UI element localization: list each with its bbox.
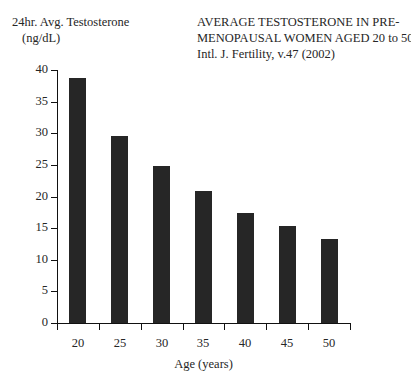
x-axis-tick-label: 30 bbox=[142, 336, 182, 351]
x-axis-tick-label: 35 bbox=[183, 336, 223, 351]
y-axis-caption-line2: (ng/dL) bbox=[12, 30, 172, 46]
y-axis-tick-label: 10 bbox=[36, 252, 49, 267]
plot-area: 0510152025303540 20253035404550 Age (yea… bbox=[57, 70, 350, 323]
x-axis-tick-label: 25 bbox=[100, 336, 140, 351]
y-axis-tick-label: 25 bbox=[36, 157, 49, 172]
y-axis-tick-mark bbox=[51, 197, 58, 198]
x-axis-tick-mark bbox=[224, 323, 225, 330]
x-axis-tick-mark bbox=[99, 323, 100, 330]
x-axis-tick-mark bbox=[141, 323, 142, 330]
y-axis-tick-label: 5 bbox=[42, 283, 48, 298]
chart-title-line2: MENOPAUSAL WOMEN AGED 20 to 50 bbox=[197, 30, 411, 46]
x-axis-tick-label: 50 bbox=[309, 336, 349, 351]
chart-title-line1: AVERAGE TESTOSTERONE IN PRE- bbox=[197, 14, 411, 30]
x-axis-title: Age (years) bbox=[57, 357, 350, 372]
bar bbox=[69, 78, 86, 323]
y-axis-caption-line1: 24hr. Avg. Testosterone bbox=[12, 14, 172, 30]
y-axis-tick: 35 bbox=[57, 102, 58, 103]
y-axis-tick-label: 40 bbox=[36, 62, 49, 77]
x-axis-tick-label: 45 bbox=[267, 336, 307, 351]
y-axis-tick-mark bbox=[51, 102, 58, 103]
x-axis-tick-mark bbox=[183, 323, 184, 330]
y-axis-tick-mark bbox=[51, 70, 58, 71]
chart-source-citation: Intl. J. Fertility, v.47 (2002) bbox=[197, 46, 411, 62]
bar bbox=[153, 166, 170, 323]
y-axis-tick: 30 bbox=[57, 133, 58, 134]
y-axis-tick-mark bbox=[51, 165, 58, 166]
y-axis-tick-label: 15 bbox=[36, 220, 49, 235]
chart-title: AVERAGE TESTOSTERONE IN PRE- MENOPAUSAL … bbox=[197, 14, 411, 62]
x-axis-tick-mark bbox=[57, 323, 58, 330]
x-axis-tick-mark bbox=[350, 323, 351, 330]
y-axis-tick-mark bbox=[51, 291, 58, 292]
bar bbox=[237, 213, 254, 323]
y-axis-tick-label: 35 bbox=[36, 94, 49, 109]
x-axis-tick-label: 20 bbox=[58, 336, 98, 351]
x-axis-tick-mark bbox=[266, 323, 267, 330]
y-axis-tick: 20 bbox=[57, 197, 58, 198]
y-axis-tick: 5 bbox=[57, 291, 58, 292]
bar bbox=[111, 136, 128, 323]
bar bbox=[321, 239, 338, 323]
y-axis-caption: 24hr. Avg. Testosterone (ng/dL) bbox=[12, 14, 172, 46]
x-axis-line bbox=[57, 323, 350, 324]
y-axis-tick-label: 30 bbox=[36, 125, 49, 140]
y-axis-tick-label: 20 bbox=[36, 189, 49, 204]
y-axis-tick-mark bbox=[51, 133, 58, 134]
x-axis-tick-label: 40 bbox=[225, 336, 265, 351]
x-axis-tick-mark bbox=[308, 323, 309, 330]
bar bbox=[279, 226, 296, 323]
y-axis-tick-mark bbox=[51, 260, 58, 261]
y-axis-tick: 15 bbox=[57, 228, 58, 229]
y-axis-tick: 10 bbox=[57, 260, 58, 261]
y-axis-tick-mark bbox=[51, 228, 58, 229]
chart-figure: 24hr. Avg. Testosterone (ng/dL) AVERAGE … bbox=[0, 0, 411, 372]
y-axis-tick: 25 bbox=[57, 165, 58, 166]
y-axis-tick: 40 bbox=[57, 70, 58, 71]
bar bbox=[195, 191, 212, 323]
y-axis-tick-label: 0 bbox=[42, 315, 48, 330]
